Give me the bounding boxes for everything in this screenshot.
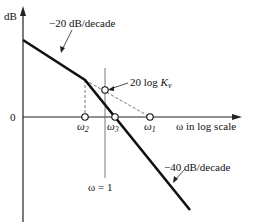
x-axis-label: ω in log scale	[176, 121, 236, 132]
omega-unity-label: ω = 1	[88, 182, 112, 193]
y-axis-label: dB	[4, 11, 17, 22]
zero-label: 0	[10, 112, 16, 123]
bode-plot	[0, 0, 255, 224]
kv-label: 20 log Kv	[130, 77, 171, 90]
kv-sub: v	[168, 81, 172, 90]
omega1-label: ω1	[144, 121, 156, 134]
kv-point	[102, 87, 108, 93]
slope1-label: −20 dB/decade	[49, 18, 115, 29]
omega2-label: ω2	[77, 121, 89, 134]
kv-symbol: K	[161, 76, 168, 88]
slope1-arrowhead-icon	[60, 46, 65, 53]
kv-label-prefix: 20 log	[130, 76, 161, 88]
kv-arrowhead-icon	[108, 86, 114, 91]
omega3-label: ω3	[107, 121, 119, 134]
slope2-label: −40 dB/decade	[164, 162, 230, 173]
slope1-pointer	[62, 30, 72, 50]
y-axis-arrow-icon	[20, 6, 26, 16]
